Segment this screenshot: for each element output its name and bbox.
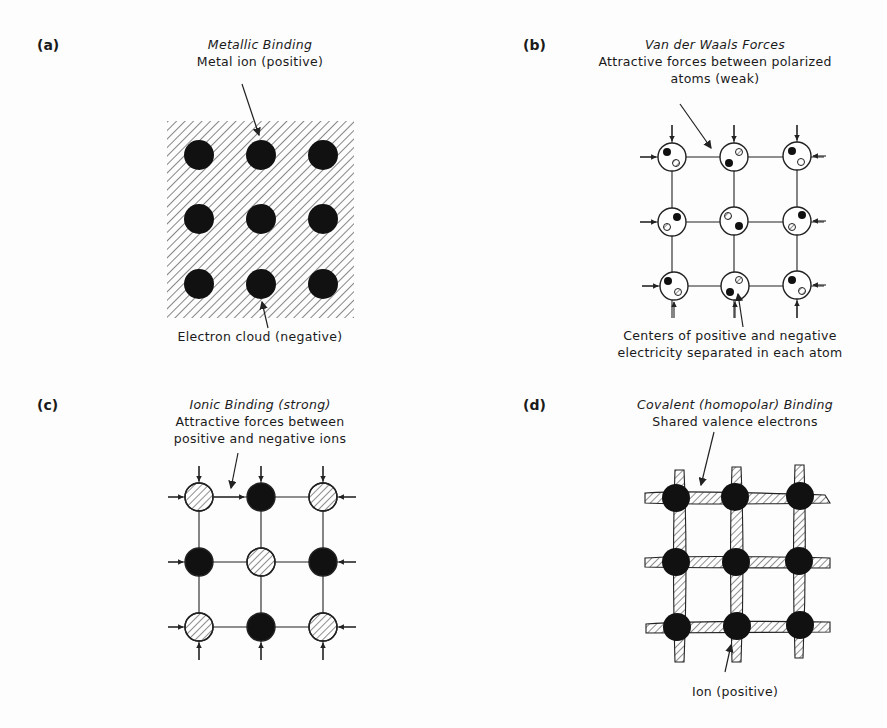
ionic-lattice <box>168 453 356 660</box>
van-der-waals-lattice <box>640 104 826 327</box>
binding-diagrams <box>0 0 887 728</box>
covalent-lattice <box>645 432 830 672</box>
metallic-lattice <box>167 84 354 328</box>
